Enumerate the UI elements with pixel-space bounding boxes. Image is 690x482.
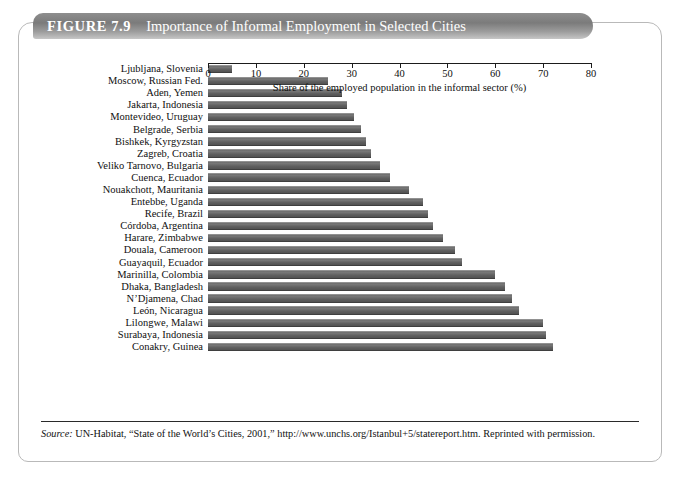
bar-row: Córdoba, Argentina <box>19 220 661 232</box>
bar-track <box>208 196 608 208</box>
bar-track <box>208 244 608 256</box>
category-label: Entebbe, Uganda <box>19 196 208 208</box>
bar-track <box>208 172 608 184</box>
bar <box>208 173 390 181</box>
category-label: Moscow, Russian Fed. <box>19 75 208 87</box>
bar <box>208 186 409 194</box>
category-label: Zagreb, Croatia <box>19 148 208 160</box>
bar-track <box>208 136 608 148</box>
x-tick-label: 30 <box>346 68 357 79</box>
bar <box>208 113 354 121</box>
x-tick-mark <box>208 63 209 68</box>
category-label: Lilongwe, Malawi <box>19 317 208 329</box>
x-tick-mark <box>256 63 257 68</box>
category-label: Ljubljana, Slovenia <box>19 63 208 75</box>
bar <box>208 270 495 278</box>
x-tick-label: 0 <box>205 68 210 79</box>
bar-row: Entebbe, Uganda <box>19 196 661 208</box>
bar-track <box>208 111 608 123</box>
category-label: Surabaya, Indonesia <box>19 329 208 341</box>
bar-row: Dhaka, Bangladesh <box>19 281 661 293</box>
x-tick-label: 10 <box>251 68 262 79</box>
bar-row: Belgrade, Serbia <box>19 123 661 135</box>
bar-row: Montevideo, Uruguay <box>19 111 661 123</box>
bar-row: Zagreb, Croatia <box>19 148 661 160</box>
bar-row: León, Nicaragua <box>19 305 661 317</box>
bar-track <box>208 123 608 135</box>
bar-track <box>208 317 608 329</box>
source-divider <box>41 421 639 422</box>
x-tick-mark <box>495 63 496 68</box>
category-label: Guayaquil, Ecuador <box>19 257 208 269</box>
bar-track <box>208 329 608 341</box>
bar <box>208 258 462 266</box>
bar-row: Veliko Tarnovo, Bulgaria <box>19 160 661 172</box>
category-label: Harare, Zimbabwe <box>19 232 208 244</box>
bar <box>208 246 455 254</box>
x-tick-mark <box>400 63 401 68</box>
x-tick-label: 50 <box>442 68 453 79</box>
category-label: Cuenca, Ecuador <box>19 172 208 184</box>
category-label: León, Nicaragua <box>19 305 208 317</box>
figure-number-label: FIGURE 7.9 <box>47 18 131 35</box>
bar <box>208 149 371 157</box>
bar-chart-plot: Ljubljana, SloveniaMoscow, Russian Fed.A… <box>19 63 661 413</box>
category-label: Bishkek, Kyrgyzstan <box>19 136 208 148</box>
category-label: Montevideo, Uruguay <box>19 111 208 123</box>
bar-row: Guayaquil, Ecuador <box>19 257 661 269</box>
bar <box>208 161 380 169</box>
bar-row: Harare, Zimbabwe <box>19 232 661 244</box>
x-tick-label: 40 <box>394 68 405 79</box>
category-label: Córdoba, Argentina <box>19 220 208 232</box>
bar <box>208 222 433 230</box>
source-text: UN-Habitat, “State of the World’s Cities… <box>73 428 595 439</box>
category-label: Recife, Brazil <box>19 208 208 220</box>
x-tick-label: 20 <box>299 68 310 79</box>
bar-row: Conakry, Guinea <box>19 341 661 353</box>
bar-row: Marinilla, Colombia <box>19 269 661 281</box>
bar <box>208 306 519 314</box>
bar-row: Cuenca, Ecuador <box>19 172 661 184</box>
bar <box>208 294 512 302</box>
source-note: Source: UN-Habitat, “State of the World’… <box>41 427 641 442</box>
x-tick-mark <box>447 63 448 68</box>
bar-track <box>208 160 608 172</box>
bar <box>208 319 543 327</box>
bar-track <box>208 257 608 269</box>
category-label: Marinilla, Colombia <box>19 269 208 281</box>
category-label: Veliko Tarnovo, Bulgaria <box>19 160 208 172</box>
bar-track <box>208 341 608 353</box>
x-tick-label: 70 <box>538 68 549 79</box>
x-tick-mark <box>543 63 544 68</box>
x-tick-label: 80 <box>586 68 597 79</box>
bar-row: Nouakchott, Mauritania <box>19 184 661 196</box>
x-tick-mark <box>304 63 305 68</box>
bar-track <box>208 148 608 160</box>
x-axis-title: Share of the employed population in the … <box>208 82 591 93</box>
bar-track <box>208 281 608 293</box>
x-tick-mark <box>352 63 353 68</box>
category-label: N’Djamena, Chad <box>19 293 208 305</box>
bar <box>208 282 505 290</box>
bar <box>208 198 423 206</box>
bar-track <box>208 184 608 196</box>
bar-row: N’Djamena, Chad <box>19 293 661 305</box>
category-label: Dhaka, Bangladesh <box>19 281 208 293</box>
bar-track <box>208 269 608 281</box>
figure-card: FIGURE 7.9 Importance of Informal Employ… <box>18 22 662 462</box>
bar-track <box>208 208 608 220</box>
category-label: Nouakchott, Mauritania <box>19 184 208 196</box>
bar <box>208 343 553 351</box>
bar-track <box>208 232 608 244</box>
x-tick-mark <box>591 63 592 68</box>
chart-area: Ljubljana, SloveniaMoscow, Russian Fed.A… <box>19 53 661 413</box>
category-label: Douala, Cameroon <box>19 244 208 256</box>
source-prefix: Source: <box>41 428 73 439</box>
category-label: Jakarta, Indonesia <box>19 99 208 111</box>
figure-title-text: Importance of Informal Employment in Sel… <box>146 18 466 35</box>
bar-row: Bishkek, Kyrgyzstan <box>19 136 661 148</box>
bar <box>208 331 546 339</box>
figure-title-banner: FIGURE 7.9 Importance of Informal Employ… <box>33 13 593 39</box>
bar <box>208 137 366 145</box>
bar <box>208 234 443 242</box>
